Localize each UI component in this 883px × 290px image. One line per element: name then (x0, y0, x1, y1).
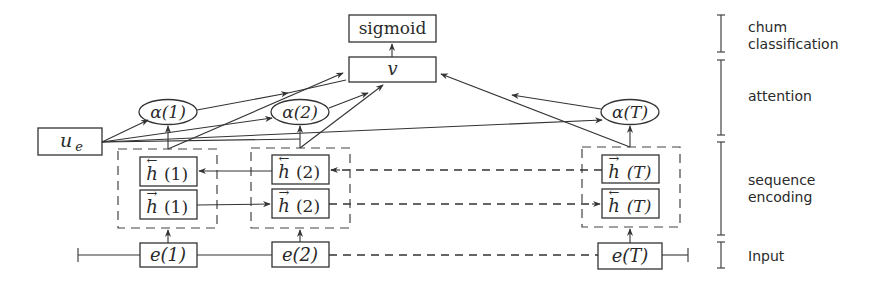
forward-h1-to-h2-arrow (197, 204, 270, 205)
h-arg-1-bottom: (1) (164, 197, 188, 217)
h-backward-node-2: ← h (2) (272, 151, 329, 184)
user-embedding-subscript: e (75, 139, 83, 154)
user-embedding-node: u e (38, 128, 102, 155)
sigmoid-node: sigmoid (349, 15, 436, 42)
churn-attention-model-diagram: sigmoid v u e α(1) α(2) α(T) (0, 0, 883, 290)
alpha1-to-v-line (288, 80, 346, 93)
layer-label-classification-line2: classification (748, 36, 839, 52)
input-label-T: e(T) (612, 245, 649, 266)
v-node: v (349, 57, 436, 82)
user-embedding-base: u (60, 129, 72, 151)
h-label-1-bottom: h (146, 196, 158, 217)
layer-label-input: Input (748, 248, 785, 264)
h-label-2-bottom: h (278, 195, 290, 216)
attention-label-T: α(T) (612, 102, 648, 122)
h-arg-T-top: (T) (627, 162, 652, 182)
layer-bracket-attention: attention (717, 60, 812, 135)
h-forward-node-T: → h (T) (602, 151, 659, 183)
layer-label-sequence-line1: sequence (748, 172, 815, 188)
input-label-1: e(1) (150, 244, 186, 265)
v-label: v (387, 58, 397, 79)
h-label-T-bottom: h (608, 195, 620, 216)
layer-bracket-classification: chum classification (717, 15, 839, 52)
input-label-2: e(2) (282, 244, 318, 265)
attention-node-T: α(T) (601, 100, 659, 125)
attention-label-1: α(1) (150, 102, 186, 122)
h-arg-T-bottom: (T) (627, 196, 652, 216)
input-node-2: e(2) (272, 242, 329, 267)
h-forward-node-2: → h (2) (272, 185, 329, 218)
layer-bracket-input: Input (717, 242, 785, 268)
h-forward-node-1: → h (1) (140, 186, 197, 219)
attention-label-2: α(2) (282, 102, 318, 122)
h-arg-2-bottom: (2) (296, 196, 320, 216)
layer-bracket-sequence-encoding: sequence encoding (717, 142, 815, 235)
input-node-T: e(T) (598, 243, 662, 269)
h-label-2-top: h (278, 161, 290, 182)
h-label-1-top: h (146, 163, 158, 184)
h-backward-node-1: ← h (1) (140, 153, 197, 186)
sigmoid-label: sigmoid (359, 18, 427, 38)
input-node-1: e(1) (140, 243, 197, 267)
h-backward-node-T: ← h (T) (602, 185, 659, 218)
h-label-T-top: h (608, 161, 620, 182)
layer-label-classification-line1: chum (748, 19, 787, 35)
attention-node-2: α(2) (271, 100, 329, 125)
h-arg-1-top: (1) (164, 164, 188, 184)
layer-label-attention: attention (748, 88, 812, 104)
layer-label-sequence-line2: encoding (748, 189, 812, 205)
h-arg-2-top: (2) (296, 162, 320, 182)
